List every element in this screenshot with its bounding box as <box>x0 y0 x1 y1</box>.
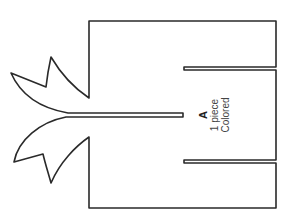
pattern-piece-diagram <box>0 0 285 221</box>
piece-color-note: Colored <box>220 97 231 132</box>
piece-quantity: 1 piece <box>209 97 220 132</box>
pattern-piece-outline <box>11 21 276 208</box>
piece-letter: A <box>198 97 209 132</box>
piece-label-text: A 1 piece Colored <box>198 97 231 132</box>
